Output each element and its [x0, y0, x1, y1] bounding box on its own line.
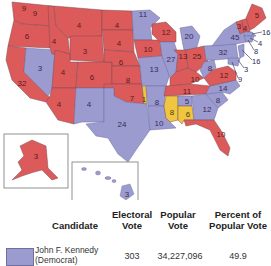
- label-TX: 24: [118, 120, 127, 129]
- label-GA: 12: [203, 105, 212, 114]
- header-electoral-line1: Electoral: [107, 210, 157, 221]
- candidate-name: John F. Kennedy (Democrat): [35, 246, 98, 265]
- label-LA: 10: [155, 119, 164, 128]
- header-popular: Popular Vote: [153, 210, 203, 231]
- label-WY: 3: [83, 47, 88, 56]
- header-electoral: Electoral Vote: [107, 210, 157, 231]
- label-AR: 8: [155, 98, 160, 107]
- electoral-vote-value: 303: [112, 251, 152, 261]
- label-OK: 7: [130, 94, 135, 103]
- label-WA: 9: [33, 9, 38, 18]
- label-NM: 4: [87, 100, 92, 109]
- label-NV: 3: [38, 64, 43, 73]
- state-MA: [244, 32, 256, 36]
- label-WI: 12: [162, 28, 171, 37]
- label-OK-unpledged: 1: [142, 95, 147, 104]
- header-popular-line2: Vote: [153, 221, 203, 232]
- label-RI: 4: [258, 39, 262, 48]
- label-MD: 9: [238, 75, 242, 84]
- label-OR: 6: [25, 32, 30, 41]
- label-FL: 10: [217, 130, 226, 139]
- label-MS: 8: [170, 108, 175, 117]
- results-table: Candidate Electoral Vote Popular Vote Pe…: [0, 204, 271, 261]
- label-IA: 10: [144, 45, 153, 54]
- label-WV: 8: [208, 64, 213, 73]
- label-ME: 5: [255, 11, 260, 20]
- label-AZ: 4: [57, 100, 62, 109]
- label-MT: 4: [77, 21, 82, 30]
- header-percent: Percent of Popular Vote: [205, 210, 271, 231]
- label-DE: 3: [244, 65, 248, 74]
- label-ND: 4: [115, 21, 120, 30]
- candidate-party: (Democrat): [35, 256, 98, 266]
- popular-vote-value: 34,227,096: [150, 251, 210, 261]
- label-MA: 16: [262, 28, 270, 37]
- label-OH: 25: [193, 52, 202, 61]
- label-CT: 8: [254, 47, 258, 56]
- label-CA: 32: [18, 79, 27, 88]
- label-PA: 32: [219, 48, 228, 57]
- label-ID: 4: [52, 37, 57, 46]
- label-AL: 6: [186, 110, 191, 119]
- label-NY: 45: [231, 33, 240, 42]
- label-SD: 4: [117, 39, 122, 48]
- percent-value: 49.9: [215, 251, 261, 261]
- header-percent-line2: Popular Vote: [205, 221, 271, 232]
- label-NH: 4: [243, 24, 248, 33]
- label-VA: 12: [220, 71, 229, 80]
- header-candidate: Candidate: [40, 221, 110, 232]
- header-popular-line1: Popular: [153, 210, 203, 221]
- label-NE: 6: [119, 58, 124, 67]
- label-AL-dem: 5: [185, 97, 190, 106]
- label-CO: 6: [90, 73, 95, 82]
- label-MI: 20: [185, 32, 194, 41]
- election-map: 9 9 6 32 3 4 4 3 4 6 4 4 4 4 6 8 7 1 24 …: [0, 0, 271, 200]
- label-MO: 13: [150, 65, 159, 74]
- state-DE-MD: [228, 58, 240, 66]
- label-NJ: 16: [252, 57, 260, 66]
- label-UT: 4: [61, 68, 66, 77]
- header-electoral-line2: Vote: [107, 221, 157, 232]
- label-KY: 10: [191, 75, 200, 84]
- label-KS: 8: [126, 76, 131, 85]
- label-IN: 13: [179, 52, 188, 61]
- label-HI: 3: [125, 190, 130, 199]
- label-SC: 8: [216, 96, 221, 105]
- label-NC: 14: [219, 84, 228, 93]
- label-WA-small: 9: [22, 4, 27, 13]
- label-IL: 27: [167, 55, 176, 64]
- label-AK: 3: [34, 152, 39, 161]
- label-TN: 11: [183, 87, 192, 96]
- label-MN: 11: [139, 10, 148, 19]
- header-percent-line1: Percent of: [205, 210, 271, 221]
- label-VT: 3: [237, 22, 242, 31]
- legend-swatch-democrat: [6, 248, 34, 266]
